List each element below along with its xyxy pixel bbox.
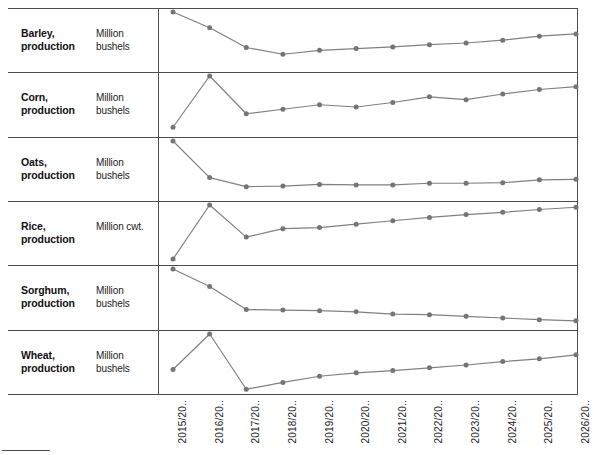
data-point-marker[interactable]: [280, 52, 285, 57]
data-point-marker[interactable]: [390, 312, 395, 317]
data-point-marker[interactable]: [500, 38, 505, 43]
data-point-marker[interactable]: [207, 202, 212, 207]
data-point-marker[interactable]: [574, 31, 579, 36]
data-point-marker[interactable]: [500, 316, 505, 321]
data-point-marker[interactable]: [390, 44, 395, 49]
data-point-marker[interactable]: [464, 97, 469, 102]
data-line: [173, 205, 576, 259]
data-point-marker[interactable]: [464, 40, 469, 45]
data-point-marker[interactable]: [280, 183, 285, 188]
sparkline-plot: [158, 72, 578, 136]
data-point-marker[interactable]: [537, 356, 542, 361]
data-point-marker[interactable]: [317, 309, 322, 314]
data-point-marker[interactable]: [280, 226, 285, 231]
data-point-marker[interactable]: [427, 215, 432, 220]
data-point-marker[interactable]: [537, 177, 542, 182]
unit-label: Million bushels: [96, 284, 130, 310]
bottom-left-rule-mark: [2, 450, 50, 451]
data-point-marker[interactable]: [171, 367, 176, 372]
data-point-marker[interactable]: [171, 9, 176, 14]
data-point-marker[interactable]: [390, 100, 395, 105]
data-point-marker[interactable]: [244, 235, 249, 240]
commodity-label: Rice, production: [21, 220, 75, 246]
data-point-marker[interactable]: [390, 218, 395, 223]
x-axis-tick-label: 2026/20..: [580, 400, 591, 444]
data-line: [173, 269, 576, 321]
commodity-label: Corn, production: [21, 91, 75, 117]
data-point-marker[interactable]: [537, 87, 542, 92]
panel-row: Wheat, productionMillion bushels: [8, 330, 578, 394]
data-point-marker[interactable]: [280, 308, 285, 313]
data-point-marker[interactable]: [464, 180, 469, 185]
data-point-marker[interactable]: [207, 25, 212, 30]
data-point-marker[interactable]: [574, 85, 579, 90]
data-point-marker[interactable]: [207, 284, 212, 289]
sparkline-plot: [158, 330, 578, 394]
data-point-marker[interactable]: [574, 205, 579, 210]
data-point-marker[interactable]: [390, 368, 395, 373]
data-point-marker[interactable]: [171, 125, 176, 130]
unit-label: Million cwt.: [96, 220, 144, 233]
data-line: [173, 141, 576, 187]
data-point-marker[interactable]: [244, 184, 249, 189]
x-axis-tick-label: 2015/20..: [177, 400, 188, 444]
data-point-marker[interactable]: [354, 370, 359, 375]
commodity-label: Sorghum, production: [21, 284, 75, 310]
data-point-marker[interactable]: [427, 95, 432, 100]
data-point-marker[interactable]: [317, 182, 322, 187]
data-point-marker[interactable]: [537, 207, 542, 212]
panel-chart-container: Barley, productionMillion bushelsCorn, p…: [0, 0, 594, 455]
data-point-marker[interactable]: [354, 310, 359, 315]
data-point-marker[interactable]: [354, 46, 359, 51]
x-axis-tick-label: 2025/20..: [543, 400, 554, 444]
data-point-marker[interactable]: [427, 365, 432, 370]
data-point-marker[interactable]: [537, 318, 542, 323]
data-point-marker[interactable]: [464, 362, 469, 367]
data-point-marker[interactable]: [354, 222, 359, 227]
data-point-marker[interactable]: [207, 74, 212, 79]
data-point-marker[interactable]: [427, 180, 432, 185]
commodity-label: Barley, production: [21, 27, 75, 53]
data-point-marker[interactable]: [280, 107, 285, 112]
data-point-marker[interactable]: [464, 314, 469, 319]
x-axis-tick-label: 2018/20..: [287, 400, 298, 444]
data-point-marker[interactable]: [171, 267, 176, 272]
panel-row-label-cell: Rice, productionMillion cwt.: [8, 201, 166, 265]
x-axis-tick-label: 2022/20..: [433, 400, 444, 444]
data-point-marker[interactable]: [244, 307, 249, 312]
panel-row: Rice, productionMillion cwt.: [8, 201, 578, 265]
data-point-marker[interactable]: [317, 373, 322, 378]
data-point-marker[interactable]: [317, 48, 322, 53]
data-point-marker[interactable]: [244, 112, 249, 117]
data-point-marker[interactable]: [390, 182, 395, 187]
data-point-marker[interactable]: [500, 180, 505, 185]
panel-row-divider: [8, 201, 578, 202]
data-point-marker[interactable]: [207, 331, 212, 336]
data-point-marker[interactable]: [464, 212, 469, 217]
data-point-marker[interactable]: [354, 182, 359, 187]
data-line: [173, 334, 576, 389]
data-point-marker[interactable]: [171, 257, 176, 262]
data-point-marker[interactable]: [171, 138, 176, 143]
data-point-marker[interactable]: [500, 92, 505, 97]
data-point-marker[interactable]: [427, 42, 432, 47]
data-point-marker[interactable]: [207, 175, 212, 180]
data-point-marker[interactable]: [427, 312, 432, 317]
data-point-marker[interactable]: [500, 210, 505, 215]
data-point-marker[interactable]: [317, 225, 322, 230]
data-point-marker[interactable]: [537, 34, 542, 39]
data-point-marker[interactable]: [244, 45, 249, 50]
data-point-marker[interactable]: [317, 103, 322, 108]
panel-row: Oats, productionMillion bushels: [8, 137, 578, 201]
data-point-marker[interactable]: [280, 380, 285, 385]
data-point-marker[interactable]: [574, 176, 579, 181]
data-point-marker[interactable]: [354, 105, 359, 110]
data-point-marker[interactable]: [574, 319, 579, 324]
panel-row: Barley, productionMillion bushels: [8, 8, 578, 72]
panel-row-label-cell: Wheat, productionMillion bushels: [8, 330, 166, 394]
panel-row-label-cell: Barley, productionMillion bushels: [8, 8, 166, 72]
x-axis-tick-label: 2021/20..: [397, 400, 408, 444]
data-point-marker[interactable]: [574, 352, 579, 357]
data-point-marker[interactable]: [500, 359, 505, 364]
data-point-marker[interactable]: [244, 386, 249, 391]
